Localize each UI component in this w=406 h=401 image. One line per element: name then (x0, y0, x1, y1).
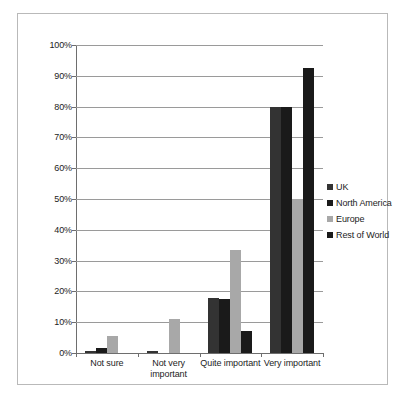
legend-item[interactable]: North America (327, 196, 405, 210)
legend-item[interactable]: Europe (327, 212, 405, 226)
legend-label: UK (336, 183, 348, 192)
y-tick-label: 40% (30, 226, 72, 235)
legend-item[interactable]: Rest of World (327, 228, 405, 242)
x-tick-label-line: Very important (251, 358, 333, 369)
bar-group (270, 45, 314, 353)
bar (281, 107, 292, 353)
bar (147, 351, 158, 353)
x-tick-mark (323, 353, 324, 357)
legend-label: North America (336, 199, 392, 208)
bar (208, 298, 219, 353)
x-axis-labels: Not sureNot veryimportantQuite important… (76, 358, 323, 392)
legend-label: Rest of World (336, 231, 389, 240)
bar-group (85, 45, 129, 353)
y-tick-label: 0% (30, 349, 72, 358)
legend-label: Europe (336, 215, 364, 224)
legend-swatch-icon (327, 216, 333, 222)
x-tick-mark (138, 353, 139, 357)
y-tick-label: 80% (30, 103, 72, 112)
bar (85, 351, 96, 353)
y-axis-labels: 100%90%80%70%60%50%40%30%20%10%0% (26, 45, 72, 353)
chart-frame: 100%90%80%70%60%50%40%30%20%10%0% Not su… (17, 13, 388, 385)
bar (96, 348, 107, 353)
y-tick-label: 20% (30, 287, 72, 296)
bar-group (147, 45, 191, 353)
bar (292, 199, 303, 353)
legend-swatch-icon (327, 232, 333, 238)
x-tick-label-line: important (128, 369, 210, 380)
y-tick-label: 60% (30, 164, 72, 173)
bar (169, 319, 180, 353)
legend-item[interactable]: UK (327, 180, 405, 194)
bar (219, 299, 230, 353)
y-tick-label: 100% (30, 41, 72, 50)
y-tick-label: 50% (30, 195, 72, 204)
bar (241, 331, 252, 353)
legend-swatch-icon (327, 200, 333, 206)
x-tick-label: Very important (251, 358, 333, 369)
y-tick-label: 70% (30, 133, 72, 142)
x-tick-mark (200, 353, 201, 357)
bar-group (208, 45, 252, 353)
bar (107, 336, 118, 353)
bar (270, 107, 281, 353)
legend-swatch-icon (327, 184, 333, 190)
bar (230, 250, 241, 353)
y-tick-label: 30% (30, 257, 72, 266)
y-tick-label: 10% (30, 318, 72, 327)
x-tick-mark (261, 353, 262, 357)
y-tick-label: 90% (30, 72, 72, 81)
chart-legend: UKNorth AmericaEuropeRest of World (327, 180, 405, 244)
x-tick-mark (76, 353, 77, 357)
bar (303, 68, 314, 353)
plot-area (76, 45, 323, 353)
